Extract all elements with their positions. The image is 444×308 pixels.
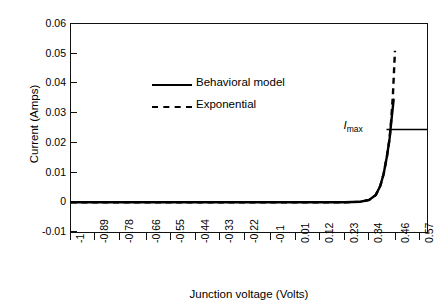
x-tick-label: -0.44 xyxy=(199,219,211,243)
x-tick-label: -0.89 xyxy=(98,219,110,243)
x-tick-label: 0.12 xyxy=(323,223,335,243)
x-tick-mark xyxy=(395,233,396,240)
x-tick-label: 0.34 xyxy=(372,223,384,243)
x-tick-label: 0.46 xyxy=(399,223,411,243)
x-tick-mark xyxy=(219,233,220,240)
x-tick-label: -0.66 xyxy=(150,219,162,243)
x-tick-label: 0.01 xyxy=(299,223,311,243)
x-tick-mark xyxy=(244,233,245,240)
plot-area xyxy=(70,23,428,233)
y-tick-label: 0 xyxy=(28,196,66,206)
y-tick-label: 0.02 xyxy=(28,137,66,147)
legend-item-behavioral-model: Behavioral model xyxy=(150,76,330,94)
page-caption-artifact xyxy=(0,299,444,307)
x-tick-label: 0.57 xyxy=(423,223,435,243)
chart-curves xyxy=(71,24,427,232)
x-tick-label: -0.33 xyxy=(223,219,235,243)
chart-legend: Behavioral model Exponential xyxy=(150,76,330,116)
x-tick-mark xyxy=(368,233,369,240)
y-axis-tick-labels: 0.060.050.040.030.020.010-0.01 xyxy=(24,0,66,308)
figure-diode-iv-curve: Current (Amps) 0.060.050.040.030.020.010… xyxy=(0,0,444,308)
x-tick-label: 0.23 xyxy=(348,223,360,243)
x-tick-label: -0.1 xyxy=(274,225,286,243)
x-tick-mark xyxy=(195,233,196,240)
y-tick-label: 0.05 xyxy=(28,48,66,58)
x-tick-mark xyxy=(119,233,120,240)
legend-label-behavioral-model: Behavioral model xyxy=(196,76,285,88)
legend-label-exponential: Exponential xyxy=(196,98,256,110)
x-tick-mark xyxy=(344,233,345,240)
x-tick-mark xyxy=(295,233,296,240)
y-tick-label: -0.01 xyxy=(28,226,66,236)
legend-dashed-line-swatch xyxy=(152,106,192,108)
imax-annotation-label: Imax xyxy=(344,119,363,134)
x-tick-label: -0.78 xyxy=(123,219,135,243)
y-tick-label: 0.06 xyxy=(28,18,66,28)
x-tick-label: -0.22 xyxy=(248,219,260,243)
x-tick-mark xyxy=(270,233,271,240)
x-tick-mark xyxy=(146,233,147,240)
y-tick-label: 0.01 xyxy=(28,167,66,177)
x-tick-label: -0.55 xyxy=(174,219,186,243)
x-tick-mark xyxy=(70,233,71,240)
y-tick-label: 0.04 xyxy=(28,77,66,87)
legend-item-exponential: Exponential xyxy=(150,98,330,116)
y-tick-label: 0.03 xyxy=(28,107,66,117)
x-tick-mark xyxy=(419,233,420,240)
x-axis-tick-labels: -1-0.89-0.78-0.66-0.55-0.44-0.33-0.22-0.… xyxy=(70,241,428,289)
x-tick-mark xyxy=(319,233,320,240)
x-tick-mark xyxy=(94,233,95,240)
x-tick-mark xyxy=(170,233,171,240)
imax-subscript: max xyxy=(347,125,363,135)
x-tick-label: -1 xyxy=(74,234,86,243)
legend-solid-line-swatch xyxy=(152,84,192,86)
